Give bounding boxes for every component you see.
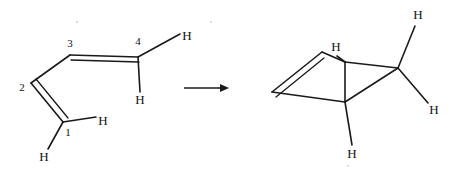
bond-c2-c3-single — [31, 55, 70, 83]
bond-c1-c2-primary — [31, 83, 63, 122]
scheme-canvas: 1 2 3 4 H H H H — [0, 0, 453, 174]
bond-upper-to-ch2 — [345, 62, 398, 68]
carbon-number-4: 4 — [135, 35, 141, 47]
bond-lower-to-ch2 — [345, 68, 398, 102]
carbon-number-2: 2 — [19, 81, 25, 93]
bond-alkene-secondary — [276, 58, 324, 97]
bond-c4-h-upper — [138, 34, 180, 57]
paper-speck — [347, 165, 349, 167]
hydrogen-label-c1-lower: H — [39, 149, 48, 164]
product-structure: H H H H — [272, 7, 439, 161]
reaction-arrow — [184, 84, 229, 92]
bond-ch2-h-upper — [398, 26, 415, 68]
hydrogen-label-c4-upper: H — [182, 28, 191, 43]
hydrogen-label-c1-right: H — [98, 113, 107, 128]
bond-alkene-double — [272, 52, 324, 97]
reaction-scheme-figure: 1 2 3 4 H H H H — [0, 0, 453, 174]
carbon-number-3: 3 — [67, 37, 73, 49]
hydrogen-label-c4-lower: H — [135, 92, 144, 107]
bond-ring-left-lower — [272, 92, 345, 102]
reaction-arrow-head — [220, 84, 229, 92]
bond-bridgehead-h-lower — [345, 102, 352, 145]
bond-ch2-h-lower — [398, 68, 428, 103]
paper-speck — [210, 21, 212, 23]
bond-c1-c2-double — [31, 79, 68, 122]
hydrogen-label-bridgehead-lower: H — [347, 146, 356, 161]
paper-speck — [76, 21, 78, 23]
hydrogen-label-ch2-lower: H — [429, 102, 438, 117]
bond-c4-h-lower — [138, 57, 140, 92]
bond-c3-c4-secondary — [71, 60, 139, 62]
bond-c3-c4-primary — [70, 55, 138, 57]
bond-alkene-primary — [272, 52, 322, 92]
hydrogen-label-inner: H — [331, 39, 340, 54]
carbon-number-1: 1 — [65, 126, 71, 138]
bond-c1-c2-secondary — [36, 79, 68, 118]
bond-c1-h-lower — [48, 122, 63, 149]
bond-c3-c4-double — [70, 55, 139, 62]
hydrogen-label-ch2-upper: H — [413, 7, 422, 22]
reactant-structure: 1 2 3 4 H H H H — [19, 28, 191, 164]
